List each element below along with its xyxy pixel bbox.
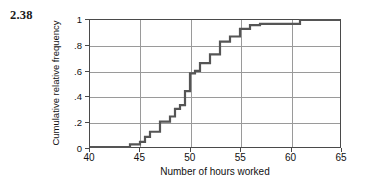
y-tick-mark (85, 19, 89, 20)
plot-area (89, 19, 341, 148)
y-axis-title: Cumulative relative frequency (50, 20, 61, 145)
y-tick-mark (85, 122, 89, 123)
x-tick-label: 55 (235, 152, 246, 163)
x-tick-label: 45 (134, 152, 145, 163)
x-axis-title: Number of hours worked (160, 166, 270, 177)
y-tick-mark (85, 96, 89, 97)
x-tick-label: 40 (83, 152, 94, 163)
figure-container: 2.38 Cumulative relative frequency Numbe… (0, 0, 365, 183)
y-tick-label: .8 (74, 39, 82, 50)
y-tick-mark (85, 148, 89, 149)
step-curve (90, 20, 340, 147)
x-tick-label: 50 (184, 152, 195, 163)
y-tick-mark (85, 45, 89, 46)
exercise-number-label: 2.38 (10, 8, 33, 23)
y-tick-label: .4 (74, 91, 82, 102)
y-tick-label: 1 (77, 14, 82, 25)
y-tick-label: 0 (77, 143, 82, 154)
y-tick-mark (85, 71, 89, 72)
y-tick-label: .6 (74, 65, 82, 76)
y-tick-label: .2 (74, 117, 82, 128)
x-tick-label: 65 (335, 152, 346, 163)
x-tick-label: 60 (285, 152, 296, 163)
